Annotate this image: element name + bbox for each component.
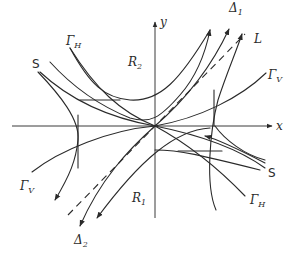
label-region-r1: R1	[132, 192, 146, 207]
label-delta1: Δ1	[229, 2, 243, 17]
trajectory-left	[38, 72, 78, 200]
label-line-l: L	[254, 33, 262, 45]
trajectory-delta1	[155, 29, 229, 126]
label-gamma-v-top: ΓV	[268, 69, 282, 84]
phase-portrait	[0, 0, 294, 253]
label-delta2: Δ2	[74, 234, 88, 249]
gamma-h-curve-top	[70, 48, 155, 126]
label-region-r2: R2	[128, 56, 142, 71]
gamma-v-curve-top	[155, 73, 266, 126]
label-gamma-h-bottom: ΓH	[250, 194, 265, 209]
trajectory-r1	[97, 128, 210, 218]
label-separatrix-bottom: S	[268, 167, 276, 179]
y-axis-label: y	[160, 16, 167, 28]
label-gamma-h-top: ΓH	[66, 35, 81, 50]
label-gamma-v-bottom: ΓV	[20, 180, 34, 195]
gamma-v-curve-bottom	[32, 126, 155, 172]
gamma-h-curve-bottom	[155, 126, 245, 196]
x-axis-label: x	[276, 120, 283, 132]
label-separatrix-top: S	[32, 58, 40, 70]
